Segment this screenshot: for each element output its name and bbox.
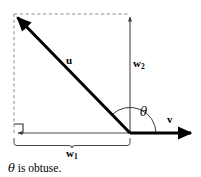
u-vector-label: u <box>66 55 72 66</box>
w2-subscript: 2 <box>141 62 145 71</box>
w1-subscript: 1 <box>74 152 78 161</box>
figure-caption: θ is obtuse. <box>8 161 61 175</box>
w1-vector-label: w1 <box>66 148 78 161</box>
caption-theta-symbol: θ <box>8 161 15 175</box>
caption-text: is obtuse. <box>18 162 61 174</box>
v-vector-label: v <box>167 114 173 125</box>
vector-diagram: u v w2 w1 θ θ is obtuse. <box>0 0 201 177</box>
w1-base: w <box>66 147 74 159</box>
right-angle-marker <box>14 124 23 133</box>
theta-angle-label: θ <box>140 106 147 118</box>
diagram-canvas <box>0 0 201 177</box>
w2-base: w <box>133 57 141 69</box>
w2-vector-label: w2 <box>133 58 145 71</box>
u-vector-line <box>18 18 131 134</box>
